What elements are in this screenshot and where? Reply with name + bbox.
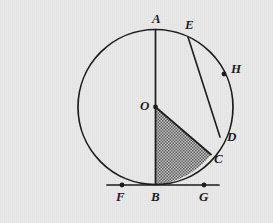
geometry-canvas: [0, 0, 273, 223]
point-label-h: H: [231, 62, 241, 75]
point-label-c: C: [214, 152, 223, 165]
point-label-d: D: [227, 130, 236, 143]
point-label-a: A: [152, 12, 161, 25]
point-label-b: B: [151, 190, 160, 203]
point-label-o: O: [140, 99, 149, 112]
point-label-e: E: [185, 18, 194, 31]
point-dot-o: [153, 105, 158, 110]
point-dot-h: [222, 72, 227, 77]
point-dot-f: [120, 183, 125, 188]
segment-chord-ed: [188, 37, 220, 137]
point-label-g: G: [199, 190, 208, 203]
point-dot-g: [202, 183, 207, 188]
shaded-region-obc: [156, 107, 212, 185]
point-label-f: F: [116, 190, 125, 203]
geometry-figure: AEHDCOBFG: [0, 0, 273, 223]
